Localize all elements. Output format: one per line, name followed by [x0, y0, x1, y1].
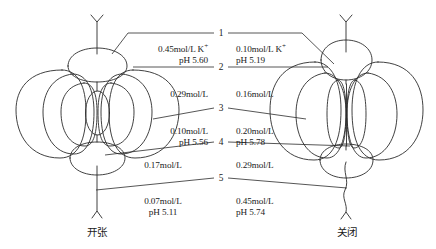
marker-number-5: 5 [214, 173, 228, 183]
right-ph-5: pH 5.74 [236, 207, 265, 217]
right-conc-4: 0.29mol/L [236, 160, 274, 170]
left-conc-2: 0.29mol/L [170, 89, 208, 99]
caption-open: 开张 [72, 226, 122, 238]
marker-number-2: 2 [214, 62, 228, 72]
right-charge-1: + [282, 42, 286, 50]
right-value-3: 0.20mol/L pH 5.78 [236, 126, 331, 149]
stomatal-comparison-figure: 1 2 3 4 5 0.45mol/L K+ pH 5.60 0.29mol/L… [0, 0, 436, 249]
right-conc-5: 0.45mol/L [236, 196, 274, 206]
caption-closed: 关闭 [322, 226, 372, 238]
leader-right-5 [228, 178, 347, 188]
left-ph-1: pH 5.60 [179, 55, 208, 65]
leader-right-3 [228, 108, 306, 119]
left-value-1: 0.45mol/L K+ pH 5.60 [118, 41, 208, 67]
left-conc-5: 0.07mol/L [144, 196, 182, 206]
marker-number-3: 3 [214, 103, 228, 113]
leader-left-3 [153, 108, 214, 119]
right-conc-1: 0.10mol/L K [236, 44, 282, 54]
left-ph-3: pH 5.56 [179, 137, 208, 147]
right-conc-3: 0.20mol/L [236, 126, 274, 136]
left-value-5: 0.07mol/L pH 5.11 [118, 196, 208, 219]
left-conc-1: 0.45mol/L K [158, 44, 204, 54]
marker-number-1: 1 [214, 28, 228, 38]
right-ph-3: pH 5.78 [236, 137, 265, 147]
left-ph-5: pH 5.11 [149, 207, 178, 217]
left-conc-3: 0.10mol/L [170, 126, 208, 136]
right-value-5: 0.45mol/L pH 5.74 [236, 196, 331, 219]
right-value-4: 0.29mol/L [236, 160, 331, 171]
right-conc-2: 0.16mol/L [236, 89, 274, 99]
right-value-1: 0.10mol/L K+ pH 5.19 [236, 41, 331, 67]
marker-number-4: 4 [214, 137, 228, 147]
right-value-2: 0.16mol/L [236, 89, 331, 100]
left-value-2: 0.29mol/L [118, 89, 208, 100]
right-ph-1: pH 5.19 [236, 55, 265, 65]
leader-left-5 [96, 178, 214, 190]
left-charge-1: + [204, 42, 208, 50]
left-conc-4: 0.17mol/L [144, 160, 182, 170]
left-value-3: 0.10mol/L pH 5.56 [118, 126, 208, 149]
left-value-4: 0.17mol/L [118, 160, 208, 171]
